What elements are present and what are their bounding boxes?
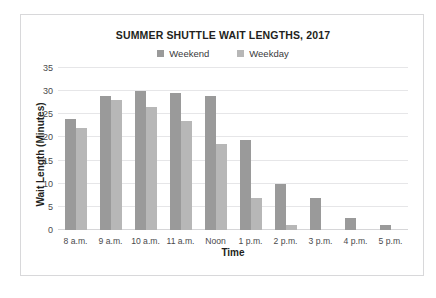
bar-weekday[interactable] [286, 225, 297, 230]
y-axis-tick-label: 10 [43, 179, 53, 189]
y-axis-tick-label: 0 [48, 225, 53, 235]
bar-group: 9 a.m. [93, 68, 128, 230]
chart-legend: Weekend Weekday [21, 48, 425, 59]
x-axis-tick-label: 5 p.m. [379, 236, 403, 246]
bar-group: 10 a.m. [128, 68, 163, 230]
chart-frame: SUMMER SHUTTLE WAIT LENGTHS, 2017 Weeken… [20, 14, 424, 276]
y-axis-tick-label: 35 [43, 63, 53, 73]
bar-weekend[interactable] [345, 218, 356, 230]
legend-item-weekend[interactable]: Weekend [157, 48, 209, 59]
x-axis-tick-label: 10 a.m. [131, 236, 160, 246]
y-axis-tick-label: 20 [43, 132, 53, 142]
legend-item-weekday[interactable]: Weekday [237, 48, 288, 59]
bar-weekend[interactable] [65, 119, 76, 230]
y-axis-tick-label: 25 [43, 109, 53, 119]
legend-swatch-weekday [237, 50, 244, 57]
chart-title: SUMMER SHUTTLE WAIT LENGTHS, 2017 [21, 29, 425, 41]
x-axis-tick-label: Noon [205, 236, 226, 246]
bar-group: 11 a.m. [163, 68, 198, 230]
bar-weekday[interactable] [251, 198, 262, 230]
bar-weekday[interactable] [76, 128, 87, 230]
bar-weekday[interactable] [146, 107, 157, 230]
legend-swatch-weekend [157, 50, 164, 57]
bar-group: 8 a.m. [58, 68, 93, 230]
bar-weekday[interactable] [181, 121, 192, 230]
bar-weekend[interactable] [240, 140, 251, 230]
bar-weekend[interactable] [310, 198, 321, 230]
bar-group: 4 p.m. [338, 68, 373, 230]
y-axis-title: Wait Length (Minutes) [35, 74, 46, 236]
legend-label-weekday: Weekday [249, 48, 288, 59]
x-axis-tick-label: 1 p.m. [239, 236, 263, 246]
bar-weekend[interactable] [275, 184, 286, 230]
bar-weekend[interactable] [205, 96, 216, 230]
clipped-text: · · · · · [70, 0, 117, 1]
x-axis-tick-label: 2 p.m. [274, 236, 298, 246]
bar-group: 2 p.m. [268, 68, 303, 230]
x-axis-tick-label: 4 p.m. [344, 236, 368, 246]
y-axis-tick-label: 30 [43, 86, 53, 96]
bar-group: 3 p.m. [303, 68, 338, 230]
x-axis-tick-label: 11 a.m. [166, 236, 194, 246]
bar-weekend[interactable] [380, 225, 391, 230]
y-axis-tick-label: 5 [48, 202, 53, 212]
bar-group: 5 p.m. [373, 68, 408, 230]
x-axis-tick-label: 3 p.m. [309, 236, 333, 246]
bar-weekday[interactable] [111, 100, 122, 230]
x-axis-tick-label: 8 a.m. [64, 236, 88, 246]
chart-screenshot: · · · · · SUMMER SHUTTLE WAIT LENGTHS, 2… [0, 0, 436, 298]
y-axis-tick-label: 15 [43, 156, 53, 166]
x-axis-tick-label: 9 a.m. [99, 236, 123, 246]
bar-weekend[interactable] [170, 93, 181, 230]
bar-group: Noon [198, 68, 233, 230]
clipped-text-above-chart: · · · · · [0, 0, 436, 12]
legend-label-weekend: Weekend [169, 48, 209, 59]
bar-group: 1 p.m. [233, 68, 268, 230]
plot-area: 05101520253035 8 a.m.9 a.m.10 a.m.11 a.m… [58, 68, 408, 230]
bar-weekend[interactable] [135, 91, 146, 230]
bar-weekday[interactable] [216, 144, 227, 230]
bar-groups: 8 a.m.9 a.m.10 a.m.11 a.m.Noon1 p.m.2 p.… [58, 68, 408, 230]
x-axis-title: Time [58, 247, 408, 258]
bar-weekend[interactable] [100, 96, 111, 230]
